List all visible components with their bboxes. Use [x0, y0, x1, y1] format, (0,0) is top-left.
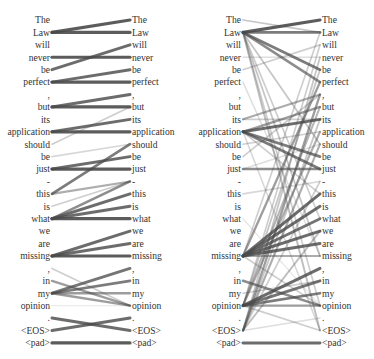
target-token: but — [132, 101, 145, 112]
source-token: be — [41, 64, 50, 75]
source-token: be — [232, 64, 241, 75]
target-token: application — [322, 126, 365, 137]
target-token: Law — [322, 27, 339, 38]
attention-edge — [52, 281, 130, 293]
target-token: , — [322, 89, 324, 100]
attention-panel-right: TheTheLawLawwillwillneverneverbebeperfec… — [188, 0, 374, 359]
source-token: its — [41, 114, 50, 125]
source-token: this — [36, 188, 50, 199]
source-token: in — [43, 275, 51, 286]
target-token: <EOS> — [322, 325, 351, 336]
source-token: will — [35, 39, 50, 50]
source-token: is — [235, 201, 242, 212]
target-token: . — [132, 312, 134, 323]
attention-edges — [52, 20, 130, 343]
source-token: this — [227, 188, 241, 199]
attention-panel-left: TheTheLawLawwillwillneverneverbebeperfec… — [0, 0, 185, 359]
target-token: perfect — [322, 76, 349, 87]
target-token: we — [132, 225, 143, 236]
target-token: are — [322, 238, 334, 249]
source-token: <EOS> — [212, 325, 241, 336]
source-token: <EOS> — [21, 325, 50, 336]
target-token: this — [322, 188, 336, 199]
target-token: missing — [322, 250, 352, 261]
target-token: application — [132, 126, 175, 137]
source-token: opinion — [21, 300, 51, 311]
source-token: . — [239, 312, 241, 323]
source-token: , — [48, 89, 50, 100]
source-token: perfect — [23, 76, 50, 87]
target-token: Law — [132, 27, 149, 38]
source-token: missing — [211, 250, 241, 261]
target-token: missing — [132, 250, 162, 261]
source-token: should — [215, 139, 241, 150]
attention-edge — [52, 268, 130, 293]
source-token: - — [238, 176, 241, 187]
source-token: opinion — [212, 300, 242, 311]
source-token: , — [239, 89, 241, 100]
target-token: , — [322, 263, 324, 274]
attention-edge — [52, 194, 130, 219]
source-token: my — [229, 288, 241, 299]
source-token: <pad> — [25, 337, 50, 348]
attention-edge — [52, 20, 130, 32]
target-token: be — [322, 64, 331, 75]
target-token: opinion — [322, 300, 352, 311]
source-token: my — [38, 288, 50, 299]
alignment-graph-right: TheTheLawLawwillwillneverneverbebeperfec… — [188, 0, 374, 359]
target-token: <pad> — [132, 337, 157, 348]
target-token: will — [322, 39, 337, 50]
source-token: we — [39, 225, 50, 236]
target-token: this — [132, 188, 146, 199]
source-token: , — [48, 263, 50, 274]
target-token: we — [322, 225, 333, 236]
source-token: what — [222, 213, 241, 224]
source-token: should — [24, 139, 50, 150]
target-token: - — [132, 176, 135, 187]
target-token: be — [132, 64, 141, 75]
source-token: will — [226, 39, 241, 50]
source-token: we — [230, 225, 241, 236]
source-token: are — [38, 238, 50, 249]
target-token: is — [322, 201, 329, 212]
source-token: <pad> — [216, 337, 241, 348]
target-token: opinion — [132, 300, 162, 311]
alignment-graph-left: TheTheLawLawwillwillneverneverbebeperfec… — [0, 0, 185, 359]
target-token: , — [132, 89, 134, 100]
target-token: just — [321, 163, 336, 174]
attention-edge — [243, 318, 320, 330]
source-token: but — [38, 101, 51, 112]
target-token: , — [132, 263, 134, 274]
target-token: in — [322, 275, 330, 286]
target-token: be — [132, 151, 141, 162]
attention-edge — [52, 70, 130, 82]
target-token: perfect — [132, 76, 159, 87]
source-token: The — [226, 14, 241, 25]
target-token: what — [132, 213, 151, 224]
source-token: are — [229, 238, 241, 249]
target-token: my — [132, 288, 144, 299]
target-token: The — [132, 14, 147, 25]
source-token: application — [7, 126, 50, 137]
attention-edge — [52, 244, 130, 256]
source-token: in — [234, 275, 242, 286]
source-token: just — [35, 163, 50, 174]
target-token: what — [322, 213, 341, 224]
source-token: Law — [224, 27, 241, 38]
source-token: be — [232, 151, 241, 162]
source-token: The — [35, 14, 50, 25]
attention-edge — [52, 119, 130, 131]
source-token: what — [31, 213, 50, 224]
target-token: will — [132, 39, 147, 50]
target-token: in — [132, 275, 140, 286]
target-token: but — [322, 101, 335, 112]
source-token: Law — [33, 27, 50, 38]
source-token: - — [47, 176, 50, 187]
target-token: its — [322, 114, 331, 125]
source-token: never — [29, 52, 51, 63]
source-token: perfect — [214, 76, 241, 87]
target-token: . — [322, 312, 324, 323]
target-token: <pad> — [322, 337, 347, 348]
target-token: be — [322, 151, 331, 162]
source-token: application — [198, 126, 241, 137]
